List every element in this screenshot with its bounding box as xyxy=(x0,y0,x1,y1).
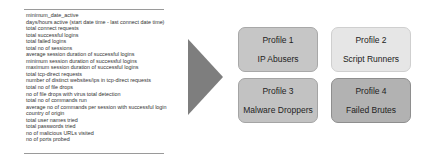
profile-number: Profile 4 xyxy=(355,86,386,96)
profile-box-1: Profile 1 IP Abusers xyxy=(238,27,318,72)
profile-name: IP Abusers xyxy=(258,54,299,64)
feature-list: minimum_date_active days/hours active (s… xyxy=(24,9,164,154)
profile-number: Profile 3 xyxy=(262,86,293,96)
profile-number: Profile 1 xyxy=(262,35,293,45)
profile-box-2: Profile 2 Script Runners xyxy=(331,27,411,72)
profile-name: Failed Brutes xyxy=(346,105,396,115)
profile-name: Script Runners xyxy=(343,54,399,64)
profile-number: Profile 2 xyxy=(355,35,386,45)
profile-box-4: Profile 4 Failed Brutes xyxy=(331,78,411,123)
feature-item: no of ports probed xyxy=(24,136,164,143)
profile-box-3: Profile 3 Malware Droppers xyxy=(238,78,318,123)
arrow-right-icon xyxy=(188,39,223,115)
profile-name: Malware Droppers xyxy=(243,105,312,115)
